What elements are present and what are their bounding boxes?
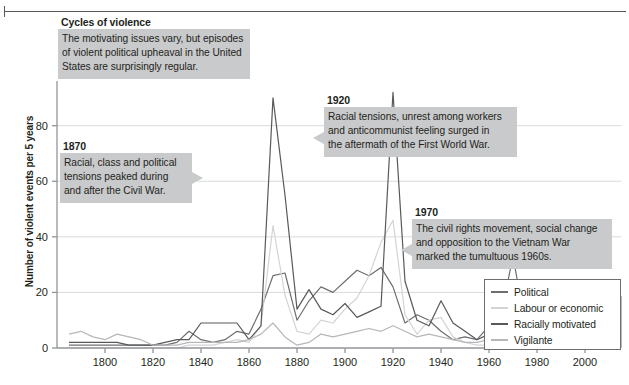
annotation-1870: 1870 Racial, class and political tension… bbox=[60, 140, 192, 203]
legend-label: Political bbox=[514, 287, 549, 298]
x-tick-label: 1900 bbox=[333, 356, 357, 368]
legend-item-2[interactable]: Racially motivated bbox=[491, 316, 620, 332]
x-tick-label: 1960 bbox=[477, 356, 501, 368]
annotation-1970: 1970 The civil rights movement, social c… bbox=[412, 206, 612, 269]
y-tick-label: 80 bbox=[36, 120, 48, 132]
legend-label: Racially motivated bbox=[514, 319, 596, 330]
chart-legend: PoliticalLabour or economicRacially moti… bbox=[484, 279, 621, 350]
x-tick-label: 1860 bbox=[237, 356, 261, 368]
legend-swatch-icon bbox=[491, 307, 508, 309]
legend-label: Vigilante bbox=[514, 335, 552, 346]
y-tick-label: 0 bbox=[42, 342, 48, 354]
annotation-cycles-of-violence: Cycles of violence The motivating issues… bbox=[58, 16, 250, 79]
y-axis-title: Number of violent events per 5 years bbox=[24, 87, 35, 317]
callout-tail-icon bbox=[313, 132, 324, 144]
annotation-title: 1920 bbox=[327, 94, 517, 106]
x-tick-label: 1940 bbox=[429, 356, 453, 368]
legend-item-0[interactable]: Political bbox=[491, 284, 620, 300]
annotation-text: The motivating issues vary, but episodes… bbox=[58, 29, 250, 79]
legend-label: Labour or economic bbox=[514, 303, 603, 314]
x-tick-label: 1800 bbox=[93, 356, 117, 368]
y-tick-label: 40 bbox=[36, 231, 48, 243]
annotation-text: The civil rights movement, social change… bbox=[412, 219, 612, 269]
legend-item-1[interactable]: Labour or economic bbox=[491, 300, 620, 316]
legend-swatch-icon bbox=[491, 291, 508, 293]
x-tick-label: 1820 bbox=[141, 356, 165, 368]
annotation-1920: 1920 Racial tensions, unrest among worke… bbox=[324, 94, 517, 157]
callout-tail-icon bbox=[401, 244, 412, 256]
x-tick-label: 1880 bbox=[285, 356, 309, 368]
annotation-title: 1870 bbox=[63, 140, 192, 152]
annotation-text: Racial tensions, unrest among workers an… bbox=[324, 107, 517, 157]
legend-swatch-icon bbox=[491, 323, 508, 325]
legend-item-3[interactable]: Vigilante bbox=[491, 332, 620, 348]
y-tick-label: 60 bbox=[36, 175, 48, 187]
x-tick-label: 1920 bbox=[381, 356, 405, 368]
chart-figure: 0204060801800182018401860188019001920194… bbox=[0, 0, 629, 385]
callout-tail-icon bbox=[192, 172, 203, 184]
legend-swatch-icon bbox=[491, 339, 508, 341]
annotation-text: Racial, class and political tensions pea… bbox=[60, 153, 192, 203]
y-tick-label: 20 bbox=[36, 286, 48, 298]
x-tick-label: 2000 bbox=[573, 356, 597, 368]
annotation-title: Cycles of violence bbox=[61, 16, 250, 28]
annotation-title: 1970 bbox=[415, 206, 612, 218]
x-tick-label: 1980 bbox=[525, 356, 549, 368]
x-tick-label: 1840 bbox=[189, 356, 213, 368]
